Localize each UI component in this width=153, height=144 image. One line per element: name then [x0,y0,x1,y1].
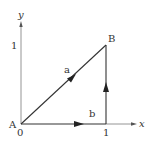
point-b-label: B [108,33,115,44]
point-a-label: A [8,119,17,130]
vector-b-horizontal-arrow-icon [74,121,84,127]
y-axis-arrow-icon [19,21,22,27]
vector-a-label: a [64,64,70,75]
x-tick-label-1: 1 [103,127,109,138]
origin-label: 0 [17,127,23,138]
x-axis-arrow-icon [131,122,137,125]
y-tick-label-1: 1 [11,40,17,51]
vector-b-vertical-arrow-icon [103,82,109,92]
y-axis-label: y [17,9,24,20]
vector-diagram: y x 1 0 1 a b A B [0,0,153,144]
vector-a-arrow-icon [67,74,76,83]
x-axis-label: x [139,118,145,129]
vector-b-label: b [89,108,95,119]
